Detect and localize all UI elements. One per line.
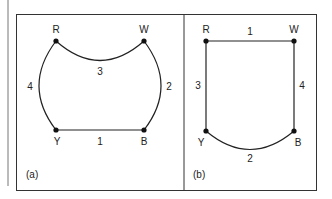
node-a-w	[141, 38, 146, 43]
node-label-b-y: Y	[198, 137, 205, 148]
node-label-b-r: R	[202, 24, 209, 35]
edge-label-b-4: 4	[299, 80, 305, 91]
edge-label-b-3: 3	[195, 80, 201, 91]
node-label-a-y: Y	[54, 136, 61, 147]
panel-caption-a: (a)	[26, 169, 38, 180]
node-b-y	[203, 128, 208, 133]
node-label-a-b: B	[141, 136, 148, 147]
node-label-a-r: R	[52, 24, 59, 35]
edge-label-b-2: 2	[247, 153, 253, 164]
node-label-b-b: B	[295, 137, 302, 148]
edge-label-a-3: 3	[97, 66, 103, 77]
panel-caption-b: (b)	[193, 169, 205, 180]
edge-label-a-4: 4	[27, 81, 33, 92]
node-b-r	[203, 38, 208, 43]
edge-a-rw	[56, 41, 144, 61]
node-a-b	[141, 127, 146, 132]
node-b-b	[291, 128, 296, 133]
edge-b-yb	[206, 131, 294, 150]
node-label-a-w: W	[139, 24, 149, 35]
graph-figure: R W Y B 1 2 3 4 (a) R W Y B 1 2 3 4 (b)	[0, 0, 332, 199]
node-label-b-w: W	[289, 24, 299, 35]
edge-a-ry	[39, 41, 56, 130]
node-a-r	[53, 38, 58, 43]
edge-a-wb	[144, 41, 161, 130]
edge-label-a-1: 1	[97, 136, 103, 147]
edge-label-b-1: 1	[247, 26, 253, 37]
panel-b: R W Y B 1 2 3 4 (b)	[193, 24, 305, 180]
edge-label-a-2: 2	[166, 81, 172, 92]
node-a-y	[53, 127, 58, 132]
node-b-w	[291, 38, 296, 43]
panel-a: R W Y B 1 2 3 4 (a)	[26, 24, 172, 180]
